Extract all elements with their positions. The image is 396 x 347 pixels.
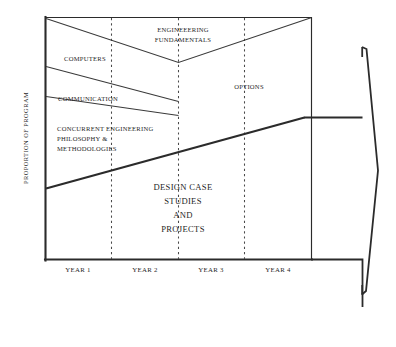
curriculum-diagram: PROPORTION OF PROGRAM ENGINEEERING FUNDA… [0,0,396,347]
x-tick-year-1: YEAR 1 [65,266,90,273]
label-engineering-fundamentals-line1: ENGINEEERING [157,26,209,33]
label-design-case-line1: DESIGN CASE [154,182,213,192]
x-tick-year-4: YEAR 4 [265,266,291,273]
label-engineering-fundamentals-line2: FUNDAMENTALS [155,36,211,43]
label-design-case-line4: PROJECTS [161,224,204,234]
label-options: OPTIONS [234,83,264,90]
label-communication: COMMUNICATION [58,95,118,102]
label-design-case-line3: AND [173,210,193,220]
diagram-canvas: PROPORTION OF PROGRAM ENGINEEERING FUNDA… [0,0,396,347]
label-concurrent-engineering-line3: METHODOLOGIES [57,145,117,152]
label-design-case-line2: STUDIES [164,196,201,206]
x-tick-year-2: YEAR 2 [132,266,158,273]
x-tick-year-3: YEAR 3 [198,266,224,273]
right-brace [362,47,378,295]
label-computers: COMPUTERS [64,55,106,62]
label-concurrent-engineering-line1: CONCURRENT ENGINEERING [57,125,153,132]
connector-lower [311,260,363,308]
label-concurrent-engineering-line2: PHILOSOPHY & [57,135,108,142]
y-axis-label: PROPORTION OF PROGRAM [22,92,29,184]
